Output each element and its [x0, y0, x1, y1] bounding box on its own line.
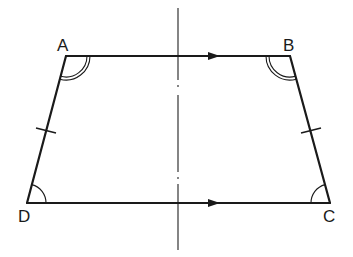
parallel-arrow-dc-icon	[208, 199, 220, 207]
side-da	[27, 56, 66, 203]
angle-mark-d-icon	[32, 185, 46, 203]
vertex-label-a: A	[57, 36, 69, 55]
vertex-label-d: D	[18, 207, 30, 226]
parallel-arrow-ab-icon	[208, 52, 220, 60]
vertex-label-c: C	[323, 207, 335, 226]
vertex-label-b: B	[283, 36, 294, 55]
angle-mark-c-icon	[311, 185, 325, 203]
side-bc	[290, 56, 330, 203]
trapezoid-diagram: A B C D	[0, 0, 353, 257]
